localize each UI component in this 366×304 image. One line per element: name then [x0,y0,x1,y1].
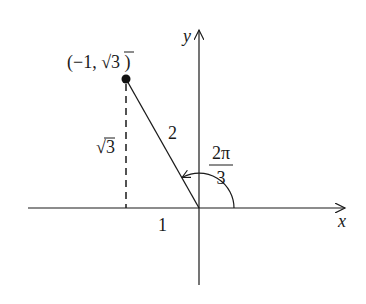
svg-text:3: 3 [217,168,226,188]
angle-label: 2π 3 [209,143,233,188]
coordinate-diagram: x y (−1, √3 ) √3 2 1 2π 3 [0,0,366,304]
angle-arc [183,173,234,208]
hypotenuse-label: 2 [168,123,177,143]
y-axis-label: y [181,26,191,46]
horizontal-leg-label: 1 [158,215,167,235]
svg-text:√3: √3 [96,137,115,157]
vertical-leg-label: √3 [96,137,115,157]
point-label: (−1, √3 ) [67,52,134,73]
svg-text:(−1, √3 ): (−1, √3 ) [67,52,131,73]
hypotenuse-segment [126,79,199,208]
point-marker [122,75,131,84]
x-axis-label: x [337,211,346,231]
svg-text:2π: 2π [212,143,230,163]
